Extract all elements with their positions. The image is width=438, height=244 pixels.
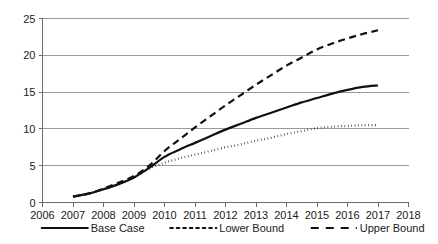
axes-group [43, 19, 409, 203]
series-line-base-case [73, 85, 378, 196]
series-line-lower-bound [73, 125, 378, 196]
x-tick-label: 2010 [152, 209, 176, 221]
legend-label: Base Case [91, 222, 145, 234]
x-tick-label: 2013 [244, 209, 268, 221]
line-chart: 0510152025 20062007200820092010201120122… [0, 0, 438, 244]
x-tick-label: 2015 [305, 209, 329, 221]
y-tick-label: 15 [23, 86, 35, 98]
gridlines-group [43, 19, 409, 203]
x-tickmarks-group [43, 203, 409, 207]
y-tick-label: 10 [23, 123, 35, 135]
legend-item-lower-bound[interactable]: Lower Bound [170, 222, 284, 234]
x-tick-label: 2007 [61, 209, 85, 221]
x-tick-label: 2011 [183, 209, 207, 221]
x-axis-tick-labels: 2006200720082009201020112012201320142015… [30, 209, 420, 221]
chart-canvas: 0510152025 20062007200820092010201120122… [0, 0, 438, 244]
x-tick-label: 2008 [91, 209, 115, 221]
x-tick-label: 2016 [335, 209, 359, 221]
legend-label: Upper Bound [360, 222, 425, 234]
y-tick-label: 0 [29, 197, 35, 209]
y-tick-label: 5 [29, 160, 35, 172]
y-tickmarks-group [39, 19, 43, 203]
y-tick-label: 20 [23, 49, 35, 61]
y-tick-label: 25 [23, 13, 35, 25]
y-axis-tick-labels: 0510152025 [23, 13, 35, 209]
x-tick-label: 2018 [396, 209, 420, 221]
x-tick-label: 2017 [366, 209, 390, 221]
legend-item-base-case[interactable]: Base Case [42, 222, 145, 234]
legend-item-upper-bound[interactable]: Upper Bound [311, 222, 425, 234]
chart-legend: Base CaseLower BoundUpper Bound [42, 222, 425, 234]
x-tick-label: 2006 [30, 209, 54, 221]
x-tick-label: 2009 [122, 209, 146, 221]
legend-label: Lower Bound [219, 222, 284, 234]
x-tick-label: 2012 [213, 209, 237, 221]
x-tick-label: 2014 [274, 209, 298, 221]
